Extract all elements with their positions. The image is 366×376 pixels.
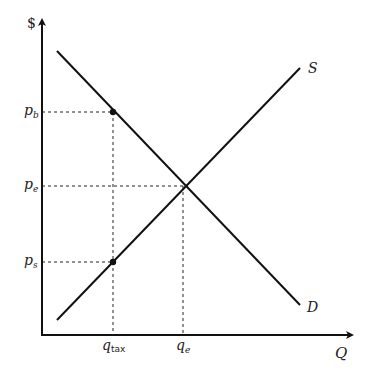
demand-label: D bbox=[306, 299, 318, 315]
pe-sub: e bbox=[33, 184, 38, 194]
demand-curve bbox=[57, 51, 300, 305]
ps-sub: s bbox=[33, 260, 38, 270]
supply-label: S bbox=[308, 60, 318, 76]
supply-demand-diagram: $ Q S D pb pe ps qtax qe bbox=[0, 0, 366, 376]
ps-label: ps bbox=[24, 252, 38, 270]
x-axis-label: Q bbox=[335, 344, 347, 362]
supply-curve bbox=[57, 68, 300, 320]
pb-sub: b bbox=[33, 110, 39, 120]
seller-price-point bbox=[110, 259, 116, 265]
pb-base: p bbox=[24, 102, 33, 118]
pb-label: pb bbox=[24, 102, 39, 120]
pe-label: pe bbox=[24, 176, 38, 194]
ps-base: p bbox=[24, 252, 33, 268]
qtax-sub: tax bbox=[111, 344, 126, 354]
qe-base: q bbox=[176, 337, 185, 353]
qtax-base: q bbox=[102, 337, 111, 353]
pe-base: p bbox=[24, 176, 33, 192]
y-axis-label: $ bbox=[27, 15, 36, 31]
buyer-price-point bbox=[110, 109, 116, 115]
guide-lines bbox=[42, 112, 183, 335]
qe-label: qe bbox=[176, 337, 190, 355]
qe-sub: e bbox=[185, 345, 190, 355]
qtax-label: qtax bbox=[102, 337, 126, 354]
